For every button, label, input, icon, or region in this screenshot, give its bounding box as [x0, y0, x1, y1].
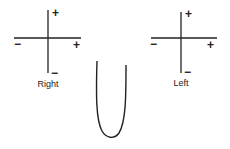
u-curve [97, 61, 126, 137]
diagram-canvas: + − − + Right + − − + Left [0, 0, 230, 149]
right-bottom-sign: − [51, 66, 58, 80]
left-bottom-sign: − [184, 65, 191, 79]
right-left-sign: − [14, 37, 21, 51]
left-top-sign: + [185, 7, 192, 21]
right-axes-label: Right [37, 79, 59, 89]
right-top-sign: + [52, 6, 59, 20]
right-right-sign: + [73, 38, 80, 52]
right-axes-group: + − − + Right [14, 6, 81, 89]
left-axes-group: + − − + Left [150, 7, 217, 88]
left-left-sign: − [150, 37, 157, 51]
left-axes-label: Left [173, 78, 189, 88]
left-right-sign: + [207, 38, 214, 52]
